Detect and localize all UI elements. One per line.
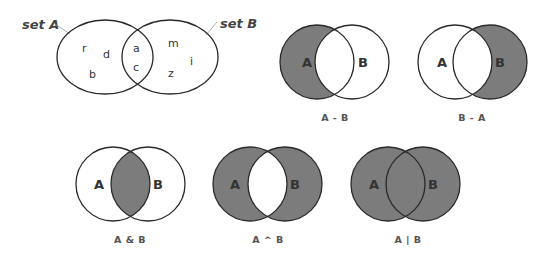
label-b: B [428,177,438,192]
venn-difference-a-b: A B A - B [280,25,389,123]
element-r: r [82,42,87,55]
label-b: B [290,177,300,192]
element-a: a [133,42,140,55]
set-operations-figure: set A set B r d b a c m z i A B A - B A … [0,0,548,263]
element-i: i [190,55,193,68]
venn-union: A B A | B [351,147,460,245]
label-b: B [153,177,163,192]
element-m: m [168,37,179,50]
label-b: B [495,55,505,70]
caption: A | B [394,234,421,245]
caption: A - B [321,112,349,123]
caption: A ^ B [252,234,284,245]
caption: B - A [458,112,486,123]
label-a: A [94,177,104,192]
caption: A & B [114,234,146,245]
venn-intersection: A B A & B [76,147,185,245]
label-a: A [230,177,240,192]
element-d: d [103,48,110,61]
venn-difference-b-a: A B B - A [418,25,527,123]
label-a: A [369,177,379,192]
label-a: A [302,55,312,70]
element-c: c [133,61,139,74]
set-b-ellipse [122,20,218,94]
set-b-title: set B [220,16,257,31]
example-venn: set A set B r d b a c m z i [22,16,257,94]
label-b: B [358,55,368,70]
set-a-title: set A [22,17,59,32]
venn-symmetric-difference: A B A ^ B [213,147,322,245]
element-z: z [168,67,174,80]
set-b-leader-line [206,22,217,35]
label-a: A [437,55,447,70]
element-b: b [89,68,96,81]
